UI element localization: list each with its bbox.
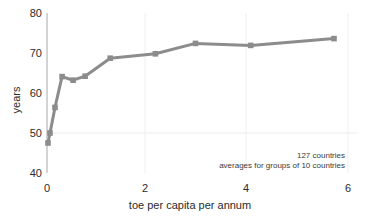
data-point [248,43,254,49]
y-tick-label-50: 50 [30,127,42,139]
data-point [331,36,337,42]
data-point [47,130,53,136]
x-tick-label-2: 2 [142,182,148,194]
data-point [45,140,51,146]
annotation-line-1: 127 countries [297,151,345,160]
data-point [153,51,159,57]
data-point [59,74,65,80]
y-tick-label-80: 80 [30,7,42,19]
x-tick-label-4: 4 [243,182,249,194]
x-tick-label-0: 0 [44,182,50,194]
grid-lines [47,13,357,173]
y-tick-label-70: 70 [30,47,42,59]
data-point [52,105,58,111]
annotation-line-2: averages for groups of 10 countries [219,161,345,170]
x-axis-title: toe per capita per annum [129,199,251,211]
data-point [82,73,88,79]
y-tick-label-40: 40 [30,167,42,179]
data-point [193,41,199,47]
data-point-markers [45,36,337,146]
chart-container: 80 70 60 50 40 0 2 4 6 toe per capita pe… [0,0,365,220]
x-tick-label-6: 6 [345,182,351,194]
y-axis-title: years [10,86,22,113]
y-tick-label-60: 60 [30,87,42,99]
data-point [107,55,113,61]
data-point [70,77,76,83]
line-chart: 80 70 60 50 40 0 2 4 6 toe per capita pe… [0,0,365,220]
data-series-line [48,39,334,143]
